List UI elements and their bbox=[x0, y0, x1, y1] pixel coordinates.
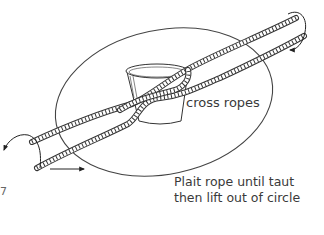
left-curved-arrow bbox=[4, 135, 41, 168]
edge-mark: 7 bbox=[0, 184, 7, 200]
instruction-label: Plait rope until taut then lift out of c… bbox=[174, 174, 300, 206]
instruction-line-1: Plait rope until taut bbox=[174, 174, 300, 190]
instruction-line-2: then lift out of circle bbox=[174, 190, 300, 206]
cross-ropes-label: cross ropes bbox=[186, 95, 260, 111]
